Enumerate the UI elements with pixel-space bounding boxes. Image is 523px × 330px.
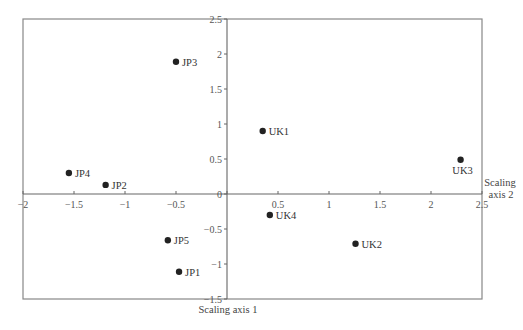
point-label: UK4 <box>276 210 297 221</box>
data-points: JP1JP2JP3JP4JP5UK1UK2UK3UK4 <box>66 57 473 278</box>
point-label: JP3 <box>182 57 197 68</box>
y-axis-title-line1: Scaling <box>484 177 516 188</box>
y-tick-label: 1 <box>217 119 222 130</box>
x-tick-label: −0.5 <box>167 199 185 210</box>
point-label: UK1 <box>269 126 289 137</box>
data-point-jp1: JP1 <box>176 267 200 278</box>
point-marker-icon <box>457 157 463 163</box>
y-tick-label: 0 <box>217 189 222 200</box>
data-point-uk3: UK3 <box>452 157 472 176</box>
y-tick-label: −0.5 <box>204 224 222 235</box>
plot-frame <box>23 19 482 299</box>
scatter-chart: −2−1.5−1−0.50.511.522.5−1.5−1−0.500.511.… <box>0 0 523 330</box>
y-tick-label: 2 <box>217 49 222 60</box>
point-marker-icon <box>102 182 108 188</box>
point-label: JP4 <box>75 168 91 179</box>
axes <box>23 19 482 299</box>
x-tick-label: 1 <box>327 199 332 210</box>
y-tick-label: 1.5 <box>210 84 223 95</box>
point-label: JP5 <box>174 235 189 246</box>
data-point-jp2: JP2 <box>102 180 126 191</box>
y-tick-label: 2.5 <box>210 14 223 25</box>
point-marker-icon <box>267 212 273 218</box>
x-tick-label: 1.5 <box>374 199 387 210</box>
point-marker-icon <box>66 170 72 176</box>
y-tick-label: 0.5 <box>210 154 223 165</box>
point-marker-icon <box>260 128 266 134</box>
y-axis-title-line2: axis 2 <box>489 189 514 200</box>
data-point-uk4: UK4 <box>267 210 297 221</box>
x-tick-label: 2 <box>429 199 434 210</box>
point-label: UK3 <box>452 165 472 176</box>
x-tick-label: 0.5 <box>272 199 285 210</box>
y-tick-label: −1.5 <box>204 294 222 305</box>
point-label: JP1 <box>185 267 200 278</box>
x-tick-label: −1.5 <box>65 199 83 210</box>
tick-marks: −2−1.5−1−0.50.511.522.5−1.5−1−0.500.511.… <box>18 14 489 305</box>
data-point-uk2: UK2 <box>352 239 382 250</box>
data-point-jp5: JP5 <box>165 235 189 246</box>
data-point-uk1: UK1 <box>260 126 290 137</box>
x-tick-label: −2 <box>18 199 29 210</box>
y-tick-label: −1 <box>211 259 222 270</box>
x-tick-label: −1 <box>120 199 131 210</box>
point-marker-icon <box>173 59 179 65</box>
point-marker-icon <box>176 269 182 275</box>
data-point-jp4: JP4 <box>66 168 91 179</box>
point-label: UK2 <box>362 239 382 250</box>
data-point-jp3: JP3 <box>173 57 197 68</box>
point-label: JP2 <box>112 180 127 191</box>
x-axis-title: Scaling axis 1 <box>199 304 258 315</box>
point-marker-icon <box>352 241 358 247</box>
x-tick-label: 2.5 <box>476 199 489 210</box>
point-marker-icon <box>165 237 171 243</box>
